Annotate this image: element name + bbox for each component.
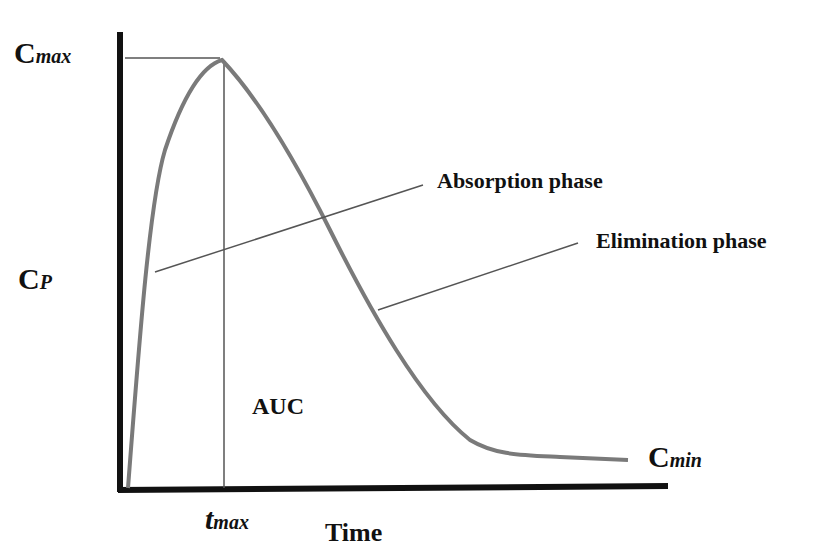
cmax-label-main: C: [14, 36, 36, 69]
tmax-label-sub: max: [213, 511, 249, 533]
auc-label: AUC: [252, 393, 304, 420]
cmax-label: Cmax: [14, 36, 71, 70]
absorption-leader-line: [155, 185, 423, 272]
cp-label-main: C: [18, 262, 40, 295]
pk-curve-diagram: [0, 0, 831, 559]
cmax-label-sub: max: [36, 45, 72, 67]
tmax-label: tmax: [205, 502, 249, 536]
absorption-phase-label: Absorption phase: [437, 168, 603, 194]
x-axis: [118, 486, 668, 490]
cp-label: CP: [18, 262, 52, 296]
cmin-label-sub: min: [670, 449, 702, 471]
cmin-label: Cmin: [648, 440, 702, 474]
cp-label-sub: P: [40, 271, 52, 293]
cmin-label-main: C: [648, 440, 670, 473]
elimination-leader-line: [378, 243, 578, 310]
elimination-phase-label: Elimination phase: [596, 228, 767, 254]
x-axis-label: Time: [325, 518, 382, 548]
concentration-curve: [128, 60, 628, 488]
